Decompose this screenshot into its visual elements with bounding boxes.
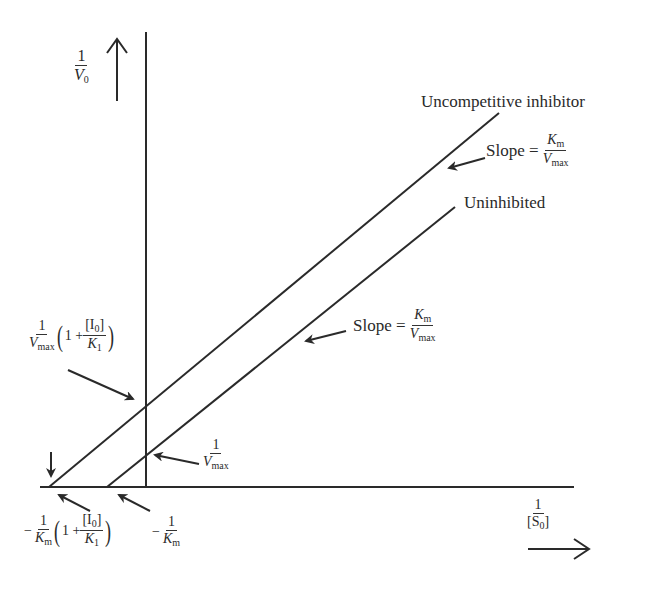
yi-one-plus: 1 + bbox=[65, 329, 83, 343]
yi-inum: [I bbox=[85, 317, 94, 332]
yu-den: V bbox=[203, 454, 212, 469]
y-label-sub: 0 bbox=[84, 74, 89, 85]
arrow-y-intercept-uninhibited-icon bbox=[155, 455, 199, 464]
slope-lower-den-sub: max bbox=[418, 332, 435, 343]
xi-ksub: 1 bbox=[94, 537, 99, 548]
xu-den-sub: m bbox=[172, 537, 180, 548]
y-axis-label: 1 V0 bbox=[74, 48, 89, 85]
xi-sign: − bbox=[24, 524, 32, 538]
x-axis-label: 1 [S0] bbox=[527, 498, 549, 531]
xi-k: K bbox=[85, 531, 94, 546]
x-label-den: [S bbox=[527, 514, 539, 529]
slope-lower-num-sub: m bbox=[423, 313, 431, 324]
xi-den: K bbox=[35, 530, 44, 545]
yu-num: 1 bbox=[210, 438, 221, 454]
x-label-numerator: 1 bbox=[533, 498, 544, 514]
arrow-y-intercept-inhibited-icon bbox=[68, 370, 133, 399]
slope-upper-prefix: Slope = bbox=[486, 142, 539, 159]
yi-den: V bbox=[29, 335, 38, 350]
yi-den-sub: max bbox=[38, 341, 55, 352]
x-direction-arrow-icon bbox=[528, 539, 589, 559]
xi-inum: [I bbox=[82, 512, 91, 527]
y-intercept-uninhibited-label: 1 Vmax bbox=[203, 438, 229, 471]
slope-upper-den-sub: max bbox=[551, 157, 568, 168]
yi-k: K bbox=[88, 336, 97, 351]
y-label-numerator: 1 bbox=[75, 48, 87, 66]
arrow-x-intercept-inhibited-icon bbox=[59, 495, 90, 511]
arrow-x-intercept-uninhibited-icon bbox=[119, 495, 150, 511]
arrow-slope-lower-icon bbox=[306, 331, 346, 341]
xu-sign: − bbox=[152, 525, 160, 539]
yi-ksub: 1 bbox=[97, 342, 102, 353]
y-direction-arrow-icon bbox=[107, 39, 127, 101]
xi-open-paren: ( bbox=[54, 516, 60, 546]
yu-den-sub: max bbox=[212, 460, 229, 471]
yi-num: 1 bbox=[36, 319, 47, 335]
line-uninhibited bbox=[107, 207, 455, 487]
label-uninhibited: Uninhibited bbox=[464, 194, 545, 211]
xu-num: 1 bbox=[166, 515, 177, 531]
xi-iclose: ] bbox=[97, 512, 102, 527]
xi-num: 1 bbox=[38, 514, 49, 530]
xi-den-sub: m bbox=[44, 536, 52, 547]
y-intercept-inhibited-label: 1 Vmax ( 1 + [I0] K1 ) bbox=[29, 318, 116, 353]
x-intercept-inhibited-label: − 1 Km ( 1 + [I0] K1 ) bbox=[24, 513, 113, 548]
slope-lower-label: Slope = Km Vmax bbox=[353, 308, 436, 343]
y-label-denominator: V bbox=[74, 66, 84, 83]
xi-one-plus: 1 + bbox=[62, 524, 80, 538]
label-uncompetitive-inhibitor: Uncompetitive inhibitor bbox=[421, 93, 585, 110]
yi-iclose: ] bbox=[100, 317, 105, 332]
x-intercept-uninhibited-label: − 1 Km bbox=[152, 515, 180, 548]
yi-close-paren: ) bbox=[108, 321, 114, 351]
arrow-slope-upper-icon bbox=[449, 158, 485, 168]
slope-upper-num-sub: m bbox=[556, 138, 564, 149]
slope-lower-prefix: Slope = bbox=[353, 317, 406, 334]
xi-close-paren: ) bbox=[105, 516, 111, 546]
x-label-close: ] bbox=[544, 514, 549, 529]
plot-canvas bbox=[0, 0, 656, 599]
line-uncompetitive-inhibitor bbox=[49, 113, 499, 487]
xu-den: K bbox=[163, 531, 172, 546]
slope-upper-label: Slope = Km Vmax bbox=[486, 133, 569, 168]
yi-open-paren: ( bbox=[57, 321, 63, 351]
